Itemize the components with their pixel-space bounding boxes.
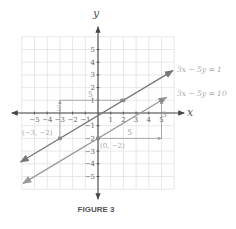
x-tick-label: −2 — [67, 116, 77, 124]
point-0--2 — [96, 137, 100, 141]
point-5-1 — [160, 99, 164, 103]
y-tick-label: −1 — [85, 122, 95, 130]
rise-label-2: 3 — [162, 110, 167, 119]
x-tick-label: −4 — [42, 116, 53, 124]
figure-caption: FIGURE 3 — [78, 205, 115, 214]
x-tick-label: 1 — [108, 116, 112, 124]
x-axis-label: x — [187, 106, 194, 119]
x-tick-label: −5 — [29, 116, 39, 124]
axes — [12, 27, 184, 199]
y-axis-label: y — [92, 7, 100, 20]
y-tick-label: −3 — [85, 148, 95, 156]
y-tick-label: 3 — [91, 71, 95, 79]
y-tick-label: 5 — [91, 46, 95, 54]
point-label-neg3-neg2: (−3, −2) — [22, 129, 53, 137]
y-tick-label: 4 — [91, 59, 96, 67]
rise-label-1: 3 — [57, 104, 62, 113]
point--3--2 — [58, 137, 62, 141]
point-label-0-neg2: (0, −2) — [100, 142, 125, 150]
y-tick-label: −4 — [85, 160, 96, 168]
point-2-1 — [122, 99, 126, 103]
x-tick-label: 4 — [147, 116, 152, 124]
y-tick-label: −5 — [85, 173, 95, 181]
line-2 — [23, 97, 167, 183]
equation-label-2: 3x − 5y = 10 — [177, 89, 227, 98]
equation-label-1: 3x − 5y = 1 — [177, 65, 222, 74]
run-label-2: 5 — [127, 128, 132, 137]
run-label-1: 5 — [88, 90, 93, 99]
figure-3-graph: −5−4−3−2−11234554321−1−2−3−4−5 3535 y x … — [0, 0, 236, 229]
